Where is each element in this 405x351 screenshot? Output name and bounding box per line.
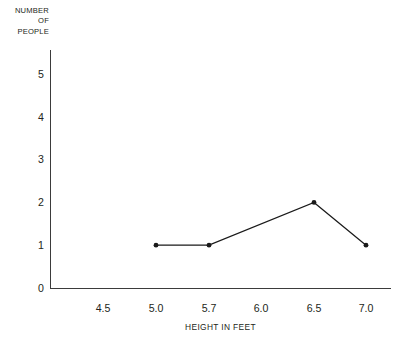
data-point-marker[interactable] [154, 243, 159, 248]
series-layer [0, 0, 405, 351]
series-line-people [156, 202, 366, 245]
line-chart-figure: NUMBER OF PEOPLE 0 1 2 3 4 5 4.5 5.0 5.7… [0, 0, 405, 351]
data-point-marker[interactable] [207, 243, 212, 248]
data-point-marker[interactable] [364, 243, 369, 248]
data-point-marker[interactable] [312, 200, 317, 205]
